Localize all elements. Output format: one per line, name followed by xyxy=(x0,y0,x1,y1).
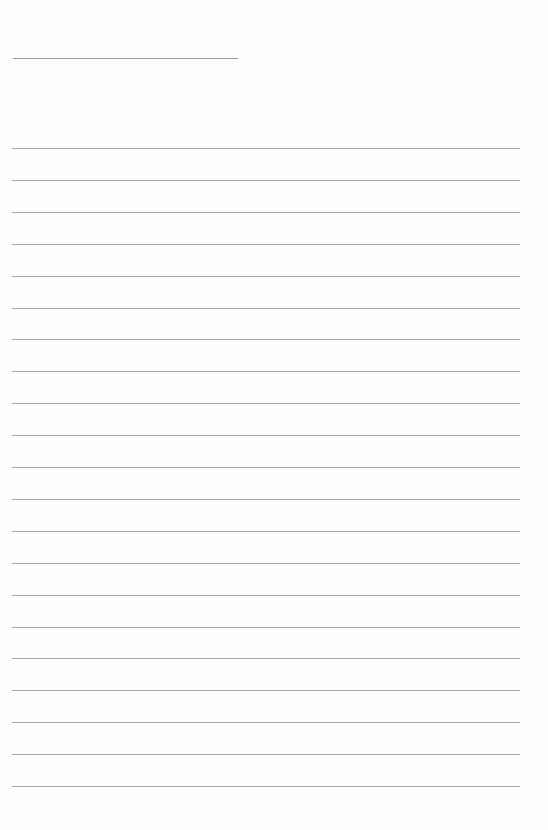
ruled-line xyxy=(12,627,520,628)
ruled-line xyxy=(12,754,520,755)
ruled-line xyxy=(12,403,520,404)
ruled-line xyxy=(12,276,520,277)
ruled-line xyxy=(12,339,520,340)
ruled-line xyxy=(12,244,520,245)
ruled-line xyxy=(12,180,520,181)
ruled-line xyxy=(12,308,520,309)
ruled-line xyxy=(12,499,520,500)
ruled-line xyxy=(12,658,520,659)
title-line xyxy=(13,58,238,59)
ruled-line xyxy=(12,595,520,596)
ruled-line xyxy=(12,690,520,691)
ruled-line xyxy=(12,148,520,149)
ruled-line xyxy=(12,371,520,372)
ruled-line xyxy=(12,531,520,532)
ruled-line xyxy=(12,563,520,564)
ruled-line xyxy=(12,786,520,787)
ruled-line xyxy=(12,435,520,436)
ruled-line xyxy=(12,212,520,213)
ruled-line xyxy=(12,722,520,723)
ruled-line xyxy=(12,467,520,468)
lined-paper-page xyxy=(0,0,548,830)
